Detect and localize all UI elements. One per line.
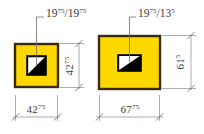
dimension-width-right: 6775 [96,95,163,121]
dimension-width-left: 4275 [12,95,61,121]
technical-drawing-canvas: 1975/1975 1975/135 4275 [0,0,204,134]
dimension-height-right: 615 [162,32,196,92]
dimension-height-left: 4275 [60,40,84,91]
dimension-height-left-label: 4275 [63,56,75,75]
dimension-width-right-label: 6775 [121,103,140,115]
leader-left-label: 1975/1975 [46,7,87,19]
leader-right-label: 1975/135 [138,7,175,19]
dimension-height-right-label: 615 [174,54,186,69]
drawing-svg: 1975/1975 1975/135 4275 [0,0,204,134]
dimension-width-left-label: 4275 [27,103,46,115]
